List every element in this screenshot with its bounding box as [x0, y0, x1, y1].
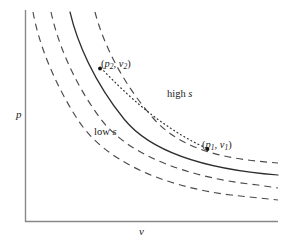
high-entropy-label: high s: [167, 89, 192, 100]
paren-close: ): [127, 58, 131, 69]
entropy-symbol: s: [112, 126, 116, 137]
subscript-1: 1: [211, 143, 215, 152]
curve-isentrope-low-s: [33, 12, 278, 200]
pv-isentrope-figure: p v (p2, v2) (p1, v1) high s low s: [0, 0, 291, 247]
state-2-label: (p2, v2): [101, 59, 131, 70]
paren-close: ): [228, 139, 232, 150]
high-s-prefix: high: [167, 88, 188, 99]
low-s-prefix: low: [94, 126, 112, 137]
y-axis-label: p: [16, 109, 22, 120]
subscript-2: 2: [110, 62, 114, 71]
state-1-label: (p1, v1): [202, 140, 232, 151]
symbol-p: p: [105, 58, 110, 69]
subscript-1b: 1: [224, 143, 228, 152]
axes-group: [25, 10, 278, 222]
plot-canvas: [0, 0, 291, 247]
low-entropy-label: low s: [94, 127, 116, 138]
entropy-symbol: s: [188, 88, 192, 99]
curve-transition-path: [101, 68, 206, 148]
symbol-p: p: [206, 139, 211, 150]
curve-isentrope-2: [51, 12, 278, 188]
x-axis-label: v: [139, 226, 144, 237]
subscript-2b: 2: [123, 62, 127, 71]
